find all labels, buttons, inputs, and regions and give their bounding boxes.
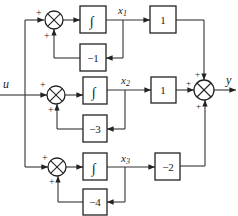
output-label: y — [225, 73, 232, 87]
output-gain-1: 1 — [160, 14, 166, 26]
row-1: + ∫ x1 1 −1 + + — [25, 4, 204, 80]
feedback-gain-1: −1 — [87, 52, 99, 64]
output-gain-2: 1 — [160, 84, 166, 96]
input-label: u — [3, 77, 9, 91]
sign-plus: + — [49, 176, 55, 187]
row-2: + ∫ x2 1 −3 + + — [25, 74, 194, 142]
state-label-x1: x1 — [117, 4, 127, 18]
summing-junction-2 — [47, 86, 65, 104]
sign-plus: + — [40, 79, 46, 90]
output-gain-3: −2 — [162, 161, 174, 173]
sign-plus: + — [42, 152, 48, 163]
state-label-x2: x2 — [120, 74, 130, 88]
sign-plus: + — [36, 7, 42, 18]
sign-plus: + — [186, 78, 191, 88]
sign-plus: + — [196, 101, 201, 111]
summing-junction-3 — [48, 158, 66, 176]
output-summing-junction — [194, 80, 214, 100]
row-3: + ∫ x3 −2 −4 + + — [25, 100, 205, 215]
feedback-gain-2: −3 — [89, 123, 101, 135]
sign-plus: + — [44, 30, 50, 41]
feedback-gain-3: −4 — [89, 196, 101, 208]
sign-plus: + — [195, 69, 200, 79]
input-signal: u — [0, 20, 25, 167]
state-label-x3: x3 — [120, 152, 130, 166]
sign-plus: + — [48, 104, 54, 115]
block-diagram: u + ∫ x1 1 −1 + + + — [0, 0, 238, 216]
summing-junction-1 — [45, 11, 63, 29]
